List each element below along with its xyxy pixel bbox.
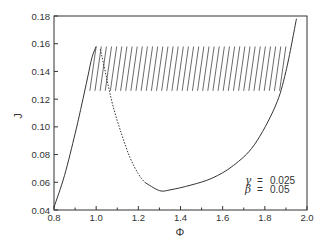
x-tick-label: 1.6 <box>216 212 229 223</box>
y-tick-label: 0.04 <box>32 205 51 216</box>
y-tick-label: 0.12 <box>32 94 51 105</box>
param-symbol: β <box>244 183 251 195</box>
param-value: 0.05 <box>270 184 290 195</box>
param-eq: = <box>257 184 263 195</box>
x-axis-label: Φ <box>176 226 185 238</box>
y-tick-label: 0.10 <box>32 121 51 132</box>
y-tick-label: 0.06 <box>32 177 51 188</box>
x-tick-label: 1.2 <box>132 212 145 223</box>
y-tick-label: 0.14 <box>32 66 51 77</box>
x-tick-label: 2.0 <box>300 212 313 223</box>
y-axis-label: J <box>12 113 24 119</box>
y-tick-label: 0.08 <box>32 149 51 160</box>
series-line <box>145 19 297 191</box>
x-tick-label: 1.0 <box>90 212 103 223</box>
y-tick-label: 0.16 <box>32 38 51 49</box>
x-tick-label: 1.8 <box>258 212 271 223</box>
x-tick-label: 1.4 <box>174 212 187 223</box>
series-line <box>100 49 144 182</box>
hatched-band <box>90 46 286 90</box>
chart: 0.81.01.21.41.61.82.00.040.060.080.100.1… <box>0 0 326 242</box>
series-line <box>54 46 96 207</box>
parameter-annotation: γ=0.025β=0.05 <box>244 174 295 195</box>
y-tick-label: 0.18 <box>32 11 51 22</box>
